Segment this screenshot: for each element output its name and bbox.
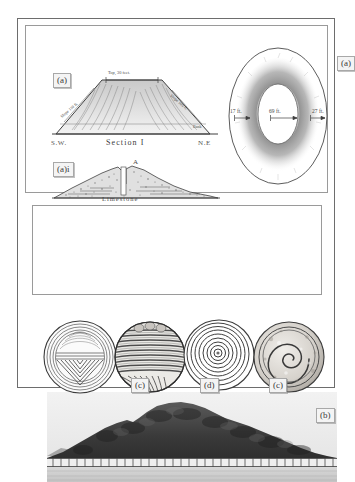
carved-disc-concentric bbox=[181, 317, 257, 393]
panel-top-sections: Slope 110 ft. Slope 100 ft. Top, 30 feet… bbox=[25, 25, 328, 193]
carved-disc-banded bbox=[112, 319, 188, 395]
caption-southwest: S.W. bbox=[51, 139, 67, 147]
panel-photo-mound: (b) bbox=[32, 205, 322, 295]
mound-photograph bbox=[47, 392, 337, 482]
caption-northeast: N.E bbox=[198, 139, 211, 147]
carved-disc-chevron bbox=[42, 319, 118, 395]
svg-text:Top, 30 feet.: Top, 30 feet. bbox=[108, 70, 130, 76]
figure-tag-d: (d) bbox=[200, 378, 219, 393]
mound-subsection-drawing bbox=[50, 158, 222, 206]
figure-tag-c-first: (c) bbox=[131, 378, 149, 393]
figure-tag-a-plan: (a) bbox=[337, 56, 355, 71]
section-caption-row: S.W. Section I N.E bbox=[50, 136, 222, 152]
mound-plan-drawing bbox=[222, 42, 334, 194]
carved-disc-spiral bbox=[251, 319, 327, 395]
figure-tag-c-second: (c) bbox=[269, 378, 287, 393]
figure-tag-a-subsection: (a)i bbox=[53, 162, 74, 177]
figure-tag-a-section: (a) bbox=[53, 73, 71, 88]
caption-section-title: Section I bbox=[106, 138, 145, 147]
figure-tag-b: (b) bbox=[316, 408, 335, 423]
plate-border: Slope 110 ft. Slope 100 ft. Top, 30 feet… bbox=[17, 18, 335, 388]
svg-text:Bank: Bank bbox=[193, 124, 201, 129]
